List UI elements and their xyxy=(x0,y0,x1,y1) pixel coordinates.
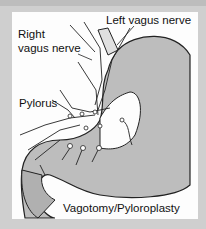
label-right-vagus-line1: Right xyxy=(18,28,45,41)
label-right-vagus-line2: vagus nerve xyxy=(18,42,81,55)
label-pylorus: Pylorus xyxy=(19,97,57,110)
label-left-vagus-nerve: Left vagus nerve xyxy=(106,14,191,27)
esophagus xyxy=(98,28,118,55)
figure-caption: Vagotomy/Pyloroplasty xyxy=(63,202,180,215)
